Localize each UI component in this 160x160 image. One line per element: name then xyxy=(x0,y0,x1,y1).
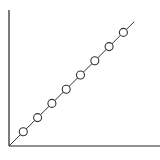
data-point-marker xyxy=(119,28,127,36)
plot-area xyxy=(9,22,134,146)
line-chart xyxy=(0,0,160,160)
data-point-marker xyxy=(77,71,85,79)
axes xyxy=(9,10,160,146)
data-point-marker xyxy=(105,43,113,51)
data-point-marker xyxy=(19,128,27,136)
data-point-marker xyxy=(62,85,70,93)
data-point-marker xyxy=(48,99,56,107)
data-point-marker xyxy=(91,57,99,65)
data-line xyxy=(9,22,134,146)
data-point-marker xyxy=(34,114,42,122)
